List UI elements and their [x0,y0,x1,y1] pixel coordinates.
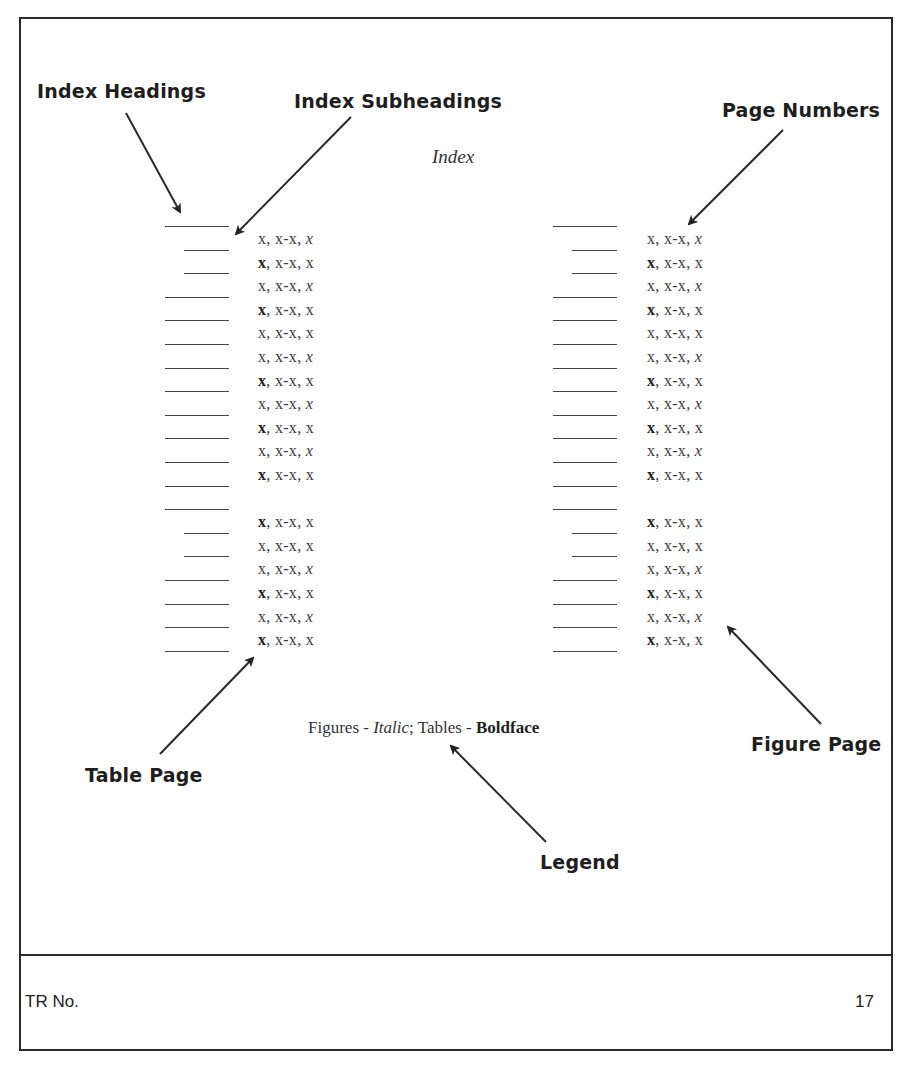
figure-page-number: x [306,230,313,247]
index-subheading-line [572,273,617,274]
figure-page-number: x [306,395,313,412]
figure-page-number: x [695,442,702,459]
page-range: , x-x, [655,230,694,247]
page-range: , x-x, [266,537,305,554]
index-page-entry: x, x-x, x [647,372,703,390]
page-number-end: x [695,254,703,271]
page-range: , x-x, [655,419,694,436]
page-range: , x-x, [266,395,305,412]
index-heading-line [553,604,617,605]
index-subheading-line [572,556,617,557]
page-range: , x-x, [266,324,305,341]
index-subheading-line [184,556,229,557]
page-range: , x-x, [655,584,694,601]
index-subheading-line [184,533,229,534]
page-range: , x-x, [655,513,694,530]
index-page-entry: x, x-x, x [258,277,313,295]
page-range: , x-x, [655,560,694,577]
page-range: , x-x, [655,631,694,648]
index-page-entry: x, x-x, x [258,395,313,413]
page-number-end: x [306,466,314,483]
index-page-entry: x, x-x, x [647,466,703,484]
page-range: , x-x, [655,466,694,483]
index-page-entry: x, x-x, x [647,395,702,413]
legend-separator: ; Tables - [409,718,476,737]
legend-figures-label: Figures - [308,718,373,737]
page-range: , x-x, [266,466,305,483]
index-heading-line [165,580,229,581]
figure-page-number: x [695,395,702,412]
index-page-entry: x, x-x, x [647,608,702,626]
label-index-subheadings: Index Subheadings [294,90,502,112]
page-range: , x-x, [655,395,694,412]
index-heading-line [165,486,229,487]
index-page-entry: x, x-x, x [647,513,703,531]
index-page-entry: x, x-x, x [647,254,703,272]
index-page-entry: x, x-x, x [258,608,313,626]
page-range: , x-x, [655,372,694,389]
index-heading-line [553,580,617,581]
page-range: , x-x, [266,560,305,577]
page-number-end: x [695,301,703,318]
index-page-entry: x, x-x, x [258,419,314,437]
index-page-entry: x, x-x, x [647,584,703,602]
page-number: 17 [855,992,874,1012]
figure-page-number: x [306,560,313,577]
page-range: , x-x, [266,419,305,436]
page-number-end: x [306,254,314,271]
index-page-entry: x, x-x, x [258,301,314,319]
page-range: , x-x, [655,254,694,271]
page-range: , x-x, [266,372,305,389]
label-page-numbers: Page Numbers [722,99,880,121]
index-heading-line [165,226,229,227]
index-heading-line [165,509,229,510]
index-heading-line [553,344,617,345]
page-range: , x-x, [266,230,305,247]
figure-page-number: x [306,277,313,294]
page-frame [19,17,893,1051]
label-legend: Legend [540,851,620,873]
index-heading-line [165,344,229,345]
figure-page-number: x [695,608,702,625]
page-number-end: x [306,584,314,601]
index-title: Index [432,146,474,168]
page-number-end: x [306,324,314,341]
index-page-entry: x, x-x, x [258,560,313,578]
index-heading-line [165,297,229,298]
figure-page-number: x [695,230,702,247]
page-number-end: x [695,537,703,554]
page-range: , x-x, [655,277,694,294]
index-subheading-line [184,273,229,274]
index-heading-line [165,438,229,439]
page-number-end: x [695,631,703,648]
index-page-entry: x, x-x, x [258,513,314,531]
page-number-end: x [695,513,703,530]
index-heading-line [553,486,617,487]
index-page-entry: x, x-x, x [647,419,703,437]
index-page-entry: x, x-x, x [258,348,313,366]
figure-page-number: x [695,560,702,577]
index-heading-line [553,297,617,298]
index-heading-line [553,226,617,227]
page-range: , x-x, [266,277,305,294]
index-page-entry: x, x-x, x [647,277,702,295]
figure-page-number: x [695,348,702,365]
index-page-entry: x, x-x, x [258,631,314,649]
index-page-entry: x, x-x, x [647,301,703,319]
figure-page-number: x [306,348,313,365]
index-heading-line [165,368,229,369]
page-range: , x-x, [266,584,305,601]
index-page-entry: x, x-x, x [647,348,702,366]
page-number-end: x [306,372,314,389]
index-heading-line [553,462,617,463]
index-heading-line [165,391,229,392]
index-heading-line [165,415,229,416]
index-page-entry: x, x-x, x [258,537,314,555]
index-page-entry: x, x-x, x [258,584,314,602]
index-heading-line [553,368,617,369]
index-heading-line [165,604,229,605]
index-heading-line [553,627,617,628]
page-range: , x-x, [655,301,694,318]
page-range: , x-x, [266,442,305,459]
index-subheading-line [572,250,617,251]
